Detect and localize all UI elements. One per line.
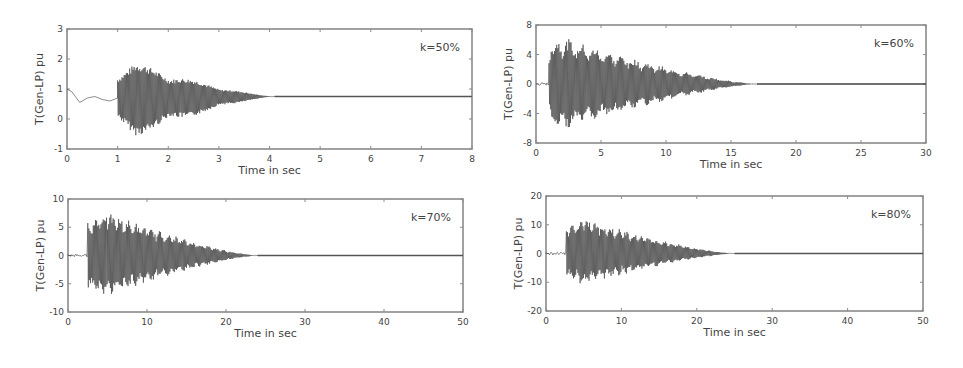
waveform-trace — [536, 39, 926, 127]
chart-panel-4: 01020304050-20-1001020Time in secT(Gen-L… — [512, 191, 929, 339]
x-axis-label: Time in sec — [702, 326, 766, 339]
y-tick-label: 20 — [531, 191, 543, 201]
y-tick-label: 0 — [536, 249, 542, 259]
x-tick-label: 40 — [842, 316, 854, 326]
x-axis-label: Time in sec — [237, 164, 301, 177]
waveform-trace — [68, 215, 463, 294]
y-tick-label: -10 — [49, 307, 64, 317]
y-tick-label: -4 — [523, 109, 532, 119]
chart-panel-3: 01020304050-10-50510Time in secT(Gen-LP)… — [34, 194, 469, 340]
k-annotation: k=50% — [420, 41, 460, 54]
x-tick-label: 5 — [317, 154, 323, 164]
x-tick-label: 0 — [65, 317, 71, 327]
x-tick-label: 1 — [115, 154, 121, 164]
x-tick-label: 10 — [616, 316, 628, 326]
y-axis-label: T(Gen-LP) pu — [512, 218, 525, 291]
y-tick-label: -5 — [55, 279, 64, 289]
y-tick-label: 5 — [58, 222, 64, 232]
x-tick-label: 30 — [299, 317, 311, 327]
x-axis-label: Time in sec — [699, 158, 763, 171]
y-axis-label: T(Gen-LP) pu — [34, 220, 47, 293]
y-tick-label: 10 — [531, 220, 543, 230]
x-tick-label: 25 — [855, 148, 866, 158]
waveform-trace — [546, 221, 923, 283]
x-tick-label: 50 — [917, 316, 929, 326]
x-tick-label: 30 — [920, 148, 932, 158]
x-axis-label: Time in sec — [233, 327, 297, 340]
x-tick-label: 6 — [368, 154, 374, 164]
y-tick-label: -10 — [527, 277, 542, 287]
y-tick-label: 0 — [526, 79, 532, 89]
y-axis-label: T(Gen-LP) pu — [502, 48, 515, 121]
k-annotation: k=60% — [874, 37, 914, 50]
k-annotation: k=80% — [871, 208, 911, 221]
x-tick-label: 20 — [220, 317, 232, 327]
y-tick-label: 4 — [526, 50, 532, 60]
x-tick-label: 20 — [691, 316, 703, 326]
y-tick-label: 10 — [53, 194, 65, 204]
y-tick-label: 0 — [58, 251, 64, 261]
x-tick-label: 4 — [267, 154, 273, 164]
y-tick-label: -1 — [54, 144, 63, 154]
x-tick-label: 2 — [165, 154, 171, 164]
y-tick-label: -8 — [523, 138, 532, 148]
x-tick-label: 10 — [141, 317, 153, 327]
y-tick-label: -20 — [527, 306, 542, 316]
y-tick-label: 3 — [57, 24, 63, 34]
x-tick-label: 50 — [457, 317, 469, 327]
chart-panel-1: 012345678-10123Time in secT(Gen-LP) puk=… — [33, 24, 475, 177]
x-tick-label: 5 — [598, 148, 604, 158]
x-tick-label: 8 — [469, 154, 475, 164]
y-tick-label: 2 — [57, 54, 63, 64]
x-tick-label: 0 — [543, 316, 549, 326]
x-tick-label: 30 — [766, 316, 778, 326]
y-tick-label: 0 — [57, 114, 63, 124]
x-tick-label: 20 — [790, 148, 802, 158]
y-tick-label: 8 — [526, 20, 532, 30]
k-annotation: k=70% — [411, 211, 451, 224]
y-tick-label: 1 — [57, 84, 63, 94]
x-tick-label: 40 — [378, 317, 390, 327]
y-axis-label: T(Gen-LP) pu — [33, 53, 46, 126]
waveform-trace — [67, 67, 472, 136]
x-tick-label: 15 — [725, 148, 736, 158]
x-tick-label: 3 — [216, 154, 222, 164]
chart-panel-2: 051015202530-8-4048Time in secT(Gen-LP) … — [502, 20, 932, 171]
x-tick-label: 7 — [419, 154, 425, 164]
figure-canvas: 012345678-10123Time in secT(Gen-LP) puk=… — [0, 0, 963, 368]
x-tick-label: 10 — [660, 148, 672, 158]
x-tick-label: 0 — [64, 154, 70, 164]
x-tick-label: 0 — [533, 148, 539, 158]
